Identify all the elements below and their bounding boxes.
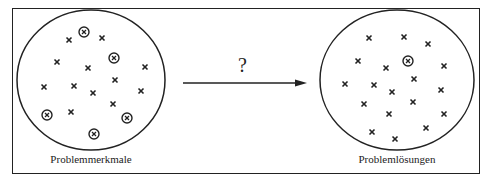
problem-features-label: Problemmerkmale bbox=[31, 153, 151, 165]
cross-mark-icon bbox=[356, 59, 361, 64]
cross-mark-icon bbox=[143, 65, 148, 70]
cross-mark-icon bbox=[343, 82, 348, 87]
cross-mark-icon bbox=[424, 126, 429, 131]
cross-mark-icon bbox=[411, 100, 416, 105]
cross-mark-icon bbox=[69, 110, 74, 115]
set-boundary-circle bbox=[17, 10, 165, 150]
circled-cross-mark-icon bbox=[79, 27, 89, 37]
cross-mark-icon bbox=[362, 102, 367, 107]
cross-mark-icon bbox=[442, 64, 447, 69]
circled-cross-mark-icon bbox=[42, 110, 52, 120]
cross-mark-icon bbox=[372, 83, 377, 88]
circled-cross-mark-icon bbox=[109, 53, 119, 63]
cross-mark-icon bbox=[111, 102, 116, 107]
problem-solutions-label: Problemlösungen bbox=[335, 153, 459, 165]
set-boundary-circle bbox=[320, 10, 474, 150]
mapping-arrow bbox=[183, 80, 307, 87]
cross-mark-icon bbox=[390, 90, 395, 95]
cross-mark-icon bbox=[55, 60, 60, 65]
cross-mark-icon bbox=[100, 36, 105, 41]
cross-mark-icon bbox=[42, 85, 47, 90]
cross-mark-icon bbox=[91, 91, 96, 96]
circled-cross-mark-icon bbox=[122, 113, 132, 123]
cross-mark-icon bbox=[86, 66, 91, 71]
arrowhead-icon bbox=[295, 80, 307, 87]
cross-mark-icon bbox=[72, 84, 77, 89]
cross-mark-icon bbox=[384, 66, 389, 71]
cross-mark-icon bbox=[387, 112, 392, 117]
cross-mark-icon bbox=[370, 130, 375, 135]
problem-features-set bbox=[17, 10, 165, 150]
cross-mark-icon bbox=[412, 77, 417, 82]
cross-mark-icon bbox=[367, 36, 372, 41]
circled-cross-mark-icon bbox=[403, 56, 413, 66]
cross-mark-icon bbox=[439, 88, 444, 93]
cross-mark-icon bbox=[442, 112, 447, 117]
cross-mark-icon bbox=[393, 137, 398, 142]
cross-mark-icon bbox=[113, 78, 118, 83]
problem-solutions-set bbox=[320, 10, 474, 150]
cross-mark-icon bbox=[139, 89, 144, 94]
cross-mark-icon bbox=[426, 42, 431, 47]
unknown-mapping-question-mark: ? bbox=[238, 54, 247, 77]
cross-mark-icon bbox=[67, 38, 72, 43]
cross-mark-icon bbox=[402, 35, 407, 40]
circled-cross-mark-icon bbox=[89, 129, 99, 139]
